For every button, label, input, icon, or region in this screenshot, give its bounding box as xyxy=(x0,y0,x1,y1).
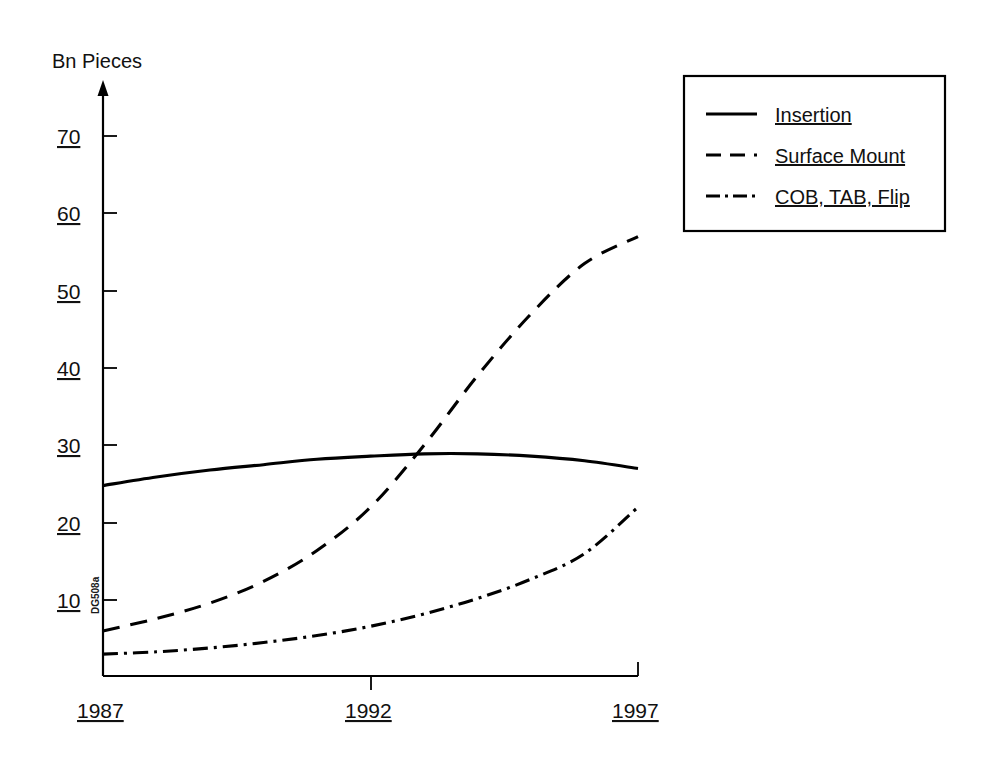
y-tick-label-70: 70 xyxy=(57,125,80,148)
x-tick-labels: 1987 1992 1997 xyxy=(77,699,659,722)
line-chart: Bn Pieces 10 20 30 40 xyxy=(0,0,996,757)
y-axis-arrow-icon xyxy=(98,80,109,96)
legend-item-cob-tab-flip[interactable]: COB, TAB, Flip xyxy=(706,186,910,208)
chart-container: Bn Pieces 10 20 30 40 xyxy=(0,0,996,757)
source-code-watermark: DG508a xyxy=(90,576,101,614)
y-tick-label-40: 40 xyxy=(57,357,80,380)
y-tick-label-60: 60 xyxy=(57,202,80,225)
y-tick-label-30: 30 xyxy=(57,434,80,457)
legend-label-surface-mount: Surface Mount xyxy=(775,145,906,167)
y-tick-marks xyxy=(103,136,117,600)
legend: Insertion Surface Mount COB, TAB, Flip xyxy=(684,76,945,231)
x-axis xyxy=(103,662,638,690)
y-tick-label-20: 20 xyxy=(57,512,80,535)
y-axis-title: Bn Pieces xyxy=(52,50,142,72)
y-tick-label-50: 50 xyxy=(57,280,80,303)
x-tick-label-1997: 1997 xyxy=(612,699,659,722)
series-line-surface-mount xyxy=(103,237,638,631)
series-line-insertion xyxy=(103,454,638,486)
legend-item-insertion[interactable]: Insertion xyxy=(706,104,852,126)
x-tick-label-1987: 1987 xyxy=(77,699,124,722)
y-tick-labels: 10 20 30 40 50 60 70 xyxy=(57,125,80,612)
legend-item-surface-mount[interactable]: Surface Mount xyxy=(706,145,906,167)
legend-label-insertion: Insertion xyxy=(775,104,852,126)
x-tick-label-1992: 1992 xyxy=(345,699,392,722)
legend-label-cob-tab-flip: COB, TAB, Flip xyxy=(775,186,910,208)
y-tick-label-10: 10 xyxy=(57,589,80,612)
series-group xyxy=(103,237,638,655)
series-line-cob-tab-flip xyxy=(103,507,638,654)
